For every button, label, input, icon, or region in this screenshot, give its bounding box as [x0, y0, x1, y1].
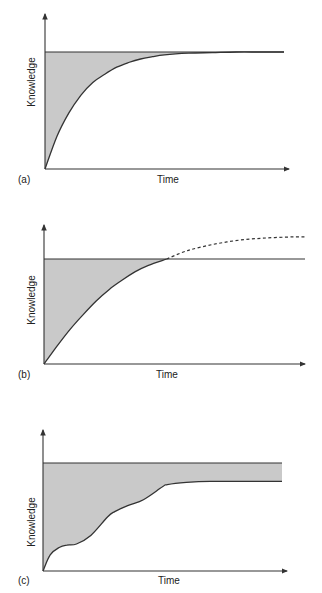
- knowledge-gap-figure: Knowledge Time (a) Knowledge Time (b) Kn…: [0, 0, 322, 593]
- x-axis-label: Time: [158, 575, 180, 586]
- y-axis-label: Knowledge: [26, 275, 37, 325]
- gap-area: [43, 463, 282, 571]
- panel-a: Knowledge Time (a): [18, 14, 289, 185]
- panel-b: Knowledge Time (b): [18, 225, 305, 380]
- panel-tag: (b): [18, 369, 30, 380]
- y-axis-label: Knowledge: [26, 57, 37, 107]
- panel-tag: (a): [18, 174, 30, 185]
- x-axis-label: Time: [156, 369, 178, 380]
- gap-area: [44, 259, 167, 364]
- panel-c: Knowledge Time (c): [18, 430, 287, 586]
- panel-tag: (c): [18, 575, 30, 586]
- gap-area: [45, 52, 284, 169]
- knowledge-curve-dashed: [167, 237, 305, 259]
- x-axis-label: Time: [157, 174, 179, 185]
- y-axis-label: Knowledge: [26, 497, 37, 547]
